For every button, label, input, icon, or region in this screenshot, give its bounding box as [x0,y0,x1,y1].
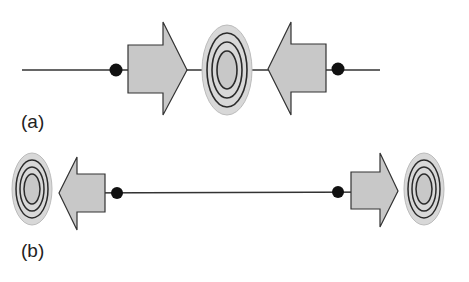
arrow-left-icon [59,157,105,230]
panel-label-b: (b) [21,240,44,262]
panel-b [12,153,444,230]
anchor-dot-left [110,64,123,77]
concentric-rings-icon [12,153,52,225]
anchor-dot-right [332,186,344,198]
panel-a [22,22,380,115]
anchor-dot-right [332,63,345,76]
arrow-right-icon [351,153,398,227]
diagram: (a) (b) [0,0,469,282]
panel-label-a: (a) [21,111,44,133]
diagram-canvas [0,0,469,282]
anchor-dot-left [111,187,123,199]
connector-line [59,192,398,193]
concentric-rings-icon [404,153,444,225]
concentric-rings-icon [202,25,252,115]
arrow-left-icon [268,22,326,115]
arrow-right-icon [128,22,187,115]
